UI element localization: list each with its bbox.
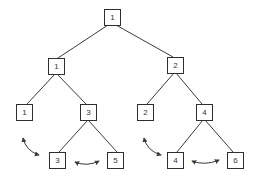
swap-arrow-icon bbox=[75, 161, 99, 164]
swap-arrow-icon bbox=[192, 160, 219, 163]
tree-node-l2-1: 1 bbox=[16, 104, 33, 121]
edge-n2-n6 bbox=[176, 73, 202, 104]
tree-node-l2-3: 2 bbox=[137, 104, 154, 121]
tree-node-l2-4: 4 bbox=[196, 104, 213, 121]
tree-node-l2-2: 3 bbox=[80, 104, 97, 121]
edge-n0-n2 bbox=[116, 25, 173, 57]
tree-node-l3-2: 5 bbox=[107, 152, 124, 169]
tree-node-l1-right: 2 bbox=[167, 57, 184, 74]
tree-node-root: 1 bbox=[104, 9, 121, 26]
tree-node-l3-1: 3 bbox=[49, 152, 66, 169]
edge-n4-n8 bbox=[89, 121, 117, 152]
edge-n2-n5 bbox=[147, 73, 174, 104]
tree-node-l3-3: 4 bbox=[167, 152, 184, 169]
tree-node-l1-left: 1 bbox=[48, 58, 65, 75]
edge-n4-n7 bbox=[59, 121, 87, 152]
swap-arrow-icon bbox=[23, 138, 39, 155]
edge-n0-n1 bbox=[58, 25, 108, 58]
edge-n6-n10 bbox=[205, 120, 233, 152]
edge-n1-n3 bbox=[27, 74, 55, 104]
binary-tree-diagram: 1 1 2 1 3 2 4 3 5 4 6 bbox=[0, 0, 257, 178]
swap-arrow-icon bbox=[144, 138, 161, 155]
edge-n6-n9 bbox=[177, 120, 203, 152]
tree-node-l3-4: 6 bbox=[227, 152, 244, 169]
edge-n1-n4 bbox=[57, 74, 86, 104]
tree-edges-layer bbox=[0, 0, 257, 178]
